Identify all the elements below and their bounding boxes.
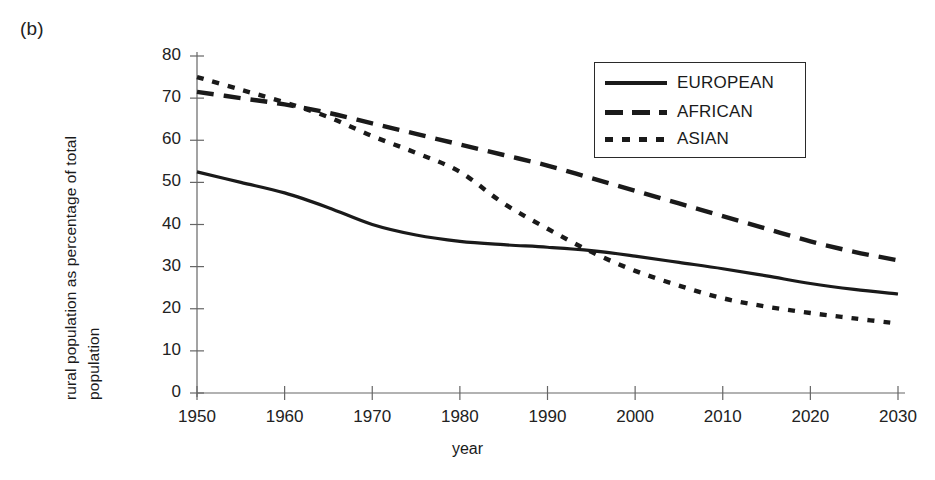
y-tick-label: 50 [141,171,181,191]
x-tick-label: 2000 [605,407,665,427]
legend-label-asian: ASIAN [677,129,729,149]
legend-label-european: EUROPEAN [677,73,774,93]
y-tick-label: 80 [141,45,181,65]
x-tick-label: 2020 [780,407,840,427]
legend-swatch-dashed-line-icon [605,110,667,115]
x-tick-label: 1970 [342,407,402,427]
y-tick-label: 60 [141,129,181,149]
series-line-european [197,172,898,294]
x-tick-label: 1960 [255,407,315,427]
y-tick-label: 30 [141,256,181,276]
x-tick-label: 2010 [693,407,753,427]
legend-label-african: AFRICAN [677,102,753,122]
x-tick-label: 1990 [518,407,578,427]
y-tick-label: 20 [141,298,181,318]
legend-entry-asian: ASIAN [605,126,729,152]
legend-swatch-dotted-line-icon [605,137,667,142]
x-tick-label: 2030 [868,407,928,427]
legend: EUROPEAN AFRICAN ASIAN [594,62,806,158]
y-tick-label: 70 [141,87,181,107]
figure-panel-b: (b) rural population as percentage of to… [0,0,935,480]
y-tick-label: 0 [141,382,181,402]
y-tick-label: 10 [141,340,181,360]
legend-swatch-solid-line-icon [605,81,667,85]
x-tick-label: 1980 [430,407,490,427]
x-tick-label: 1950 [167,407,227,427]
legend-entry-european: EUROPEAN [605,70,774,96]
legend-entry-african: AFRICAN [605,99,753,125]
y-tick-label: 40 [141,214,181,234]
